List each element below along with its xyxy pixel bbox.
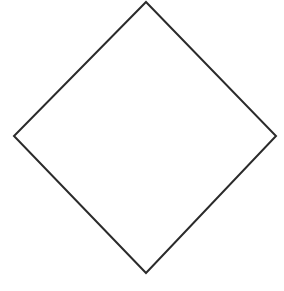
figure-canvas: [0, 0, 284, 291]
diamond-shape-svg: [0, 0, 284, 291]
canvas-background: [0, 0, 284, 291]
